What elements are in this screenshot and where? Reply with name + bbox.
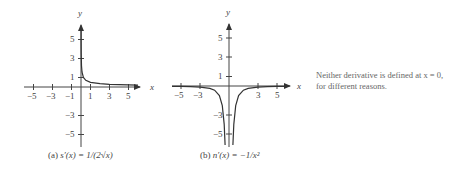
graph-b-y-tick-label: −3 xyxy=(213,110,223,120)
graph-b-y-tick-label: 1 xyxy=(218,71,223,81)
graph-a-y-tick-label: −5 xyxy=(65,129,75,139)
graph-a-curve xyxy=(81,30,138,85)
graph-b: y x −5 −3 3 5 5 3 1 −3 −5 xyxy=(172,7,301,147)
side-note-line-1: Neither derivative is defined at x = 0, xyxy=(316,70,456,81)
graph-b-y-tick-label: −5 xyxy=(213,129,223,139)
side-note: Neither derivative is defined at x = 0, … xyxy=(316,70,456,92)
graph-a-caption-prefix: (a) xyxy=(48,150,60,160)
side-note-line-2: for different reasons. xyxy=(316,81,456,92)
graph-a-x-tick-label: −5 xyxy=(27,91,37,101)
graph-a-caption-func: s′(x) = 1/(2√x) xyxy=(60,150,112,160)
graph-a-x-tick-label: −3 xyxy=(46,91,56,101)
graph-b-x-tick-label: 5 xyxy=(275,90,280,100)
graph-b-x-tick-label: −3 xyxy=(193,90,203,100)
graph-a-y-tick-label: 1 xyxy=(70,72,75,82)
graph-a-x-tick-label: 1 xyxy=(88,91,93,101)
graph-a-x-label: x xyxy=(149,82,154,92)
graph-b-y-tick-label: 5 xyxy=(218,33,223,43)
graph-b-x-tick-label: 3 xyxy=(256,90,261,100)
graph-b-caption-prefix: (b) xyxy=(200,150,213,160)
graph-a-y-tick-label: 3 xyxy=(70,53,75,63)
graph-a-y-tick-label: −3 xyxy=(65,110,75,120)
graph-a-x-tick-label: 5 xyxy=(126,91,131,101)
graph-a-caption: (a) s′(x) = 1/(2√x) xyxy=(48,150,113,160)
graph-b-y-label: y xyxy=(225,7,230,17)
graph-a-x-tick-label: 3 xyxy=(107,91,112,101)
graph-b-y-tick-label: 3 xyxy=(218,52,223,62)
graph-b-x-label: x xyxy=(296,81,301,91)
graph-a: y x −5 −3 −1 1 3 5 5 3 1 −3 −5 xyxy=(24,8,154,147)
graph-b-caption-func: n′(x) = −1/x² xyxy=(213,150,260,160)
graph-a-y-tick-label: 5 xyxy=(70,34,75,44)
graph-b-x-tick-label: −5 xyxy=(174,90,184,100)
graph-a-y-label: y xyxy=(77,8,82,18)
graph-a-x-tick-label: −1 xyxy=(65,91,75,101)
graph-b-caption: (b) n′(x) = −1/x² xyxy=(200,150,260,160)
